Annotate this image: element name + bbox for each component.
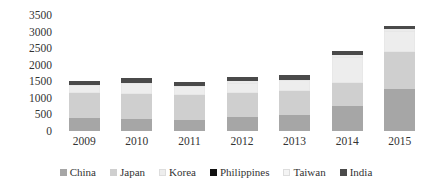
legend-label: Korea <box>169 166 196 178</box>
stacked-bar[interactable] <box>279 75 310 131</box>
bar-segment-korea[interactable] <box>384 31 415 52</box>
legend-swatch-icon <box>210 169 217 176</box>
bar-slot <box>163 15 216 131</box>
bar-segment-china[interactable] <box>384 89 415 131</box>
y-tick-label: 0 <box>0 125 52 137</box>
x-tick-label: 2009 <box>58 134 111 150</box>
chart-legend: ChinaJapanKoreaPhilippinesTaiwanIndia <box>0 163 432 181</box>
bar-segment-china[interactable] <box>174 120 205 131</box>
legend-swatch-icon <box>110 169 117 176</box>
bar-segment-china[interactable] <box>279 115 310 131</box>
stacked-bar[interactable] <box>384 26 415 131</box>
legend-label: China <box>70 166 96 178</box>
x-tick-label: 2011 <box>163 134 216 150</box>
x-tick-label: 2013 <box>268 134 321 150</box>
bar-slot <box>268 15 321 131</box>
legend-item-japan[interactable]: Japan <box>110 166 145 178</box>
bar-segment-korea[interactable] <box>69 85 100 93</box>
x-tick-label: 2012 <box>216 134 269 150</box>
stacked-bar[interactable] <box>332 51 363 131</box>
bar-slot <box>216 15 269 131</box>
bar-segment-japan[interactable] <box>174 95 205 120</box>
legend-item-taiwan[interactable]: Taiwan <box>283 166 325 178</box>
bar-segment-japan[interactable] <box>384 52 415 89</box>
x-axis: 2009201020112012201320142015 <box>58 134 426 150</box>
bar-slot <box>321 15 374 131</box>
x-tick-label: 2015 <box>373 134 426 150</box>
legend-swatch-icon <box>283 169 290 176</box>
legend-item-china[interactable]: China <box>60 166 96 178</box>
bar-segment-japan[interactable] <box>279 91 310 115</box>
bar-slot <box>373 15 426 131</box>
bar-segment-korea[interactable] <box>227 83 258 93</box>
legend-label: Philippines <box>220 166 270 178</box>
y-tick-label: 500 <box>0 108 52 120</box>
bar-segment-korea[interactable] <box>174 86 205 95</box>
bar-segment-china[interactable] <box>332 106 363 131</box>
y-tick-label: 2500 <box>0 42 52 54</box>
legend-swatch-icon <box>60 169 67 176</box>
x-tick-label: 2010 <box>111 134 164 150</box>
y-tick-label: 3500 <box>0 9 52 21</box>
legend-swatch-icon <box>340 169 347 176</box>
plot-area <box>58 15 426 131</box>
bar-segment-china[interactable] <box>227 117 258 131</box>
bar-segment-japan[interactable] <box>121 94 152 119</box>
x-tick-label: 2014 <box>321 134 374 150</box>
legend-item-korea[interactable]: Korea <box>159 166 196 178</box>
stacked-bar[interactable] <box>69 81 100 131</box>
stacked-bar[interactable] <box>121 78 152 131</box>
legend-swatch-icon <box>159 169 166 176</box>
bar-segment-korea[interactable] <box>332 57 363 82</box>
stacked-bar[interactable] <box>227 77 258 131</box>
legend-label: India <box>350 166 373 178</box>
y-tick-label: 1000 <box>0 92 52 104</box>
bar-segment-japan[interactable] <box>332 83 363 106</box>
y-tick-label: 1500 <box>0 75 52 87</box>
stacked-bar[interactable] <box>174 82 205 131</box>
legend-label: Japan <box>120 166 145 178</box>
bar-segment-korea[interactable] <box>121 83 152 94</box>
legend-item-philippines[interactable]: Philippines <box>210 166 270 178</box>
bar-segment-korea[interactable] <box>279 80 310 91</box>
legend-item-india[interactable]: India <box>340 166 373 178</box>
bar-segment-china[interactable] <box>121 119 152 131</box>
y-tick-label: 3000 <box>0 26 52 38</box>
bar-segment-japan[interactable] <box>69 93 100 118</box>
bar-slot <box>111 15 164 131</box>
stacked-bar-chart: 0500100015002000250030003500 20092010201… <box>0 0 432 186</box>
bar-series-container <box>58 15 426 131</box>
y-tick-label: 2000 <box>0 59 52 71</box>
legend-label: Taiwan <box>293 166 325 178</box>
bar-segment-japan[interactable] <box>227 93 258 117</box>
y-axis: 0500100015002000250030003500 <box>0 8 52 138</box>
bar-slot <box>58 15 111 131</box>
bar-segment-china[interactable] <box>69 118 100 131</box>
